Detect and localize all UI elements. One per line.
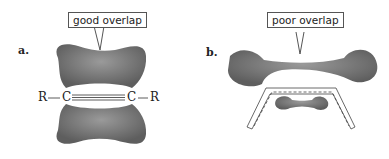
good-overlap-callout: good overlap bbox=[68, 12, 147, 28]
bottom-pi-lobe bbox=[56, 104, 146, 144]
top-pi-lobe bbox=[56, 44, 146, 88]
small-orbital bbox=[275, 96, 328, 110]
right-carbon: C bbox=[127, 90, 136, 104]
left-carbon: C bbox=[62, 90, 71, 104]
large-orbital bbox=[228, 50, 377, 87]
right-r-group: R bbox=[150, 90, 159, 104]
left-r-group: R bbox=[38, 90, 47, 104]
panel-a-label: a. bbox=[18, 44, 29, 57]
bond-bracket bbox=[247, 88, 355, 129]
panel-b-label: b. bbox=[206, 46, 218, 59]
poor-overlap-callout: poor overlap bbox=[267, 12, 344, 28]
